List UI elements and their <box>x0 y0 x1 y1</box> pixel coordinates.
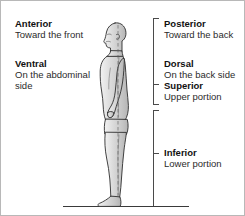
label-anterior: Anterior Toward the front <box>15 18 83 40</box>
label-posterior: Posterior Toward the back <box>164 18 233 40</box>
definition-posterior: Toward the back <box>164 29 233 40</box>
term-anterior: Anterior <box>15 18 83 29</box>
definition-anterior: Toward the front <box>15 29 83 40</box>
term-inferior: Inferior <box>164 147 222 158</box>
anatomical-directions-diagram: Anterior Toward the front Ventral On the… <box>0 0 245 216</box>
label-superior: Superior Upper portion <box>164 80 222 102</box>
label-dorsal: Dorsal On the back side <box>164 58 235 80</box>
definition-inferior: Lower portion <box>164 158 222 169</box>
human-body-lateral-profile <box>89 11 159 209</box>
hand <box>108 112 114 118</box>
neck <box>107 51 123 57</box>
definition-superior: Upper portion <box>164 91 222 102</box>
term-posterior: Posterior <box>164 18 233 29</box>
head-profile <box>104 23 126 53</box>
term-dorsal: Dorsal <box>164 58 235 69</box>
term-superior: Superior <box>164 80 222 91</box>
label-inferior: Inferior Lower portion <box>164 147 222 169</box>
definition-dorsal: On the back side <box>164 69 235 80</box>
leg <box>105 133 127 198</box>
foot <box>98 196 121 206</box>
